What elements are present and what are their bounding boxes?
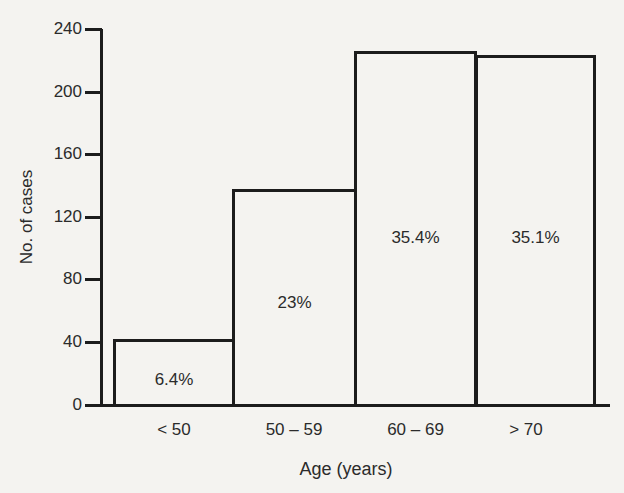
y-tick-0	[85, 404, 102, 407]
y-tick-160	[85, 153, 102, 156]
y-tick-label: 160	[38, 144, 82, 164]
bar-percent-label: 23%	[235, 292, 354, 314]
bar-percent-label: 35.1%	[478, 227, 593, 249]
y-tick-40	[85, 341, 102, 344]
y-axis-title: No. of cases	[16, 162, 38, 272]
y-tick-label: 40	[38, 332, 82, 352]
y-tick-label: 240	[38, 19, 82, 39]
y-tick-120	[85, 216, 102, 219]
bar-60-69: 35.4%	[354, 51, 477, 407]
x-tick-label: > 70	[466, 420, 586, 440]
y-tick-200	[85, 91, 102, 94]
bar-percent-label: 6.4%	[116, 369, 232, 391]
bar-over-70: 35.1%	[475, 55, 596, 407]
bar-50-59: 23%	[232, 189, 357, 407]
y-tick-label: 80	[38, 269, 82, 289]
y-tick-80	[85, 278, 102, 281]
x-axis-title: Age (years)	[246, 458, 446, 480]
x-tick-label: < 50	[114, 420, 234, 440]
x-tick-label: 60 – 69	[355, 420, 476, 440]
bar-percent-label: 35.4%	[357, 227, 474, 249]
y-tick-label: 200	[38, 82, 82, 102]
x-tick-label: 50 – 59	[233, 420, 355, 440]
y-tick-240	[85, 28, 102, 31]
scanned-histogram-figure: No. of cases 240 200 160 120 80 40 0 6.4…	[0, 0, 624, 493]
y-tick-label: 120	[38, 207, 82, 227]
bar-under-50: 6.4%	[113, 339, 235, 407]
y-tick-label: 0	[38, 395, 82, 415]
